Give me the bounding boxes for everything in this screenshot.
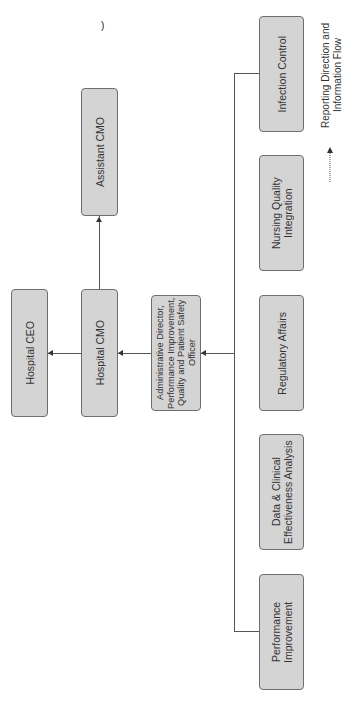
legend-arrow-icon <box>0 0 353 704</box>
